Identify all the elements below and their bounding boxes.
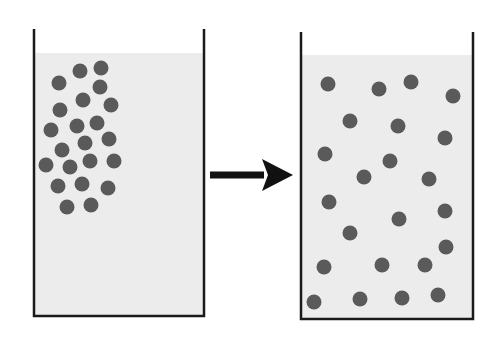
particle <box>446 89 461 104</box>
particle <box>76 93 91 108</box>
particle <box>53 103 68 118</box>
beaker-after <box>301 32 473 319</box>
particle <box>404 75 419 90</box>
particle <box>383 154 398 169</box>
particle <box>78 136 93 151</box>
particle <box>395 291 410 306</box>
particle <box>52 76 67 91</box>
particle <box>343 226 358 241</box>
particle <box>439 240 454 255</box>
particle <box>353 292 368 307</box>
particle <box>51 179 66 194</box>
particle <box>90 116 105 131</box>
particle <box>431 288 446 303</box>
particle <box>63 160 78 175</box>
particle <box>343 114 358 129</box>
particle <box>94 61 109 76</box>
particle <box>84 198 99 213</box>
particle <box>93 80 108 95</box>
particle <box>107 154 122 169</box>
particle <box>102 132 117 147</box>
particle <box>55 143 70 158</box>
particle <box>318 147 333 162</box>
particle <box>317 260 332 275</box>
particle <box>75 177 90 192</box>
particle <box>372 82 387 97</box>
particle <box>104 98 119 113</box>
particle <box>60 200 75 215</box>
particle <box>392 212 407 227</box>
particle <box>101 181 116 196</box>
particle <box>422 172 437 187</box>
arrow-head <box>262 159 293 191</box>
particle <box>375 258 390 273</box>
particle <box>73 64 88 79</box>
particle <box>418 258 433 273</box>
particle <box>307 295 322 310</box>
arrow-right-icon <box>210 159 293 191</box>
particle <box>70 119 85 134</box>
particle <box>322 195 337 210</box>
particle <box>438 131 453 146</box>
particle <box>357 170 372 185</box>
particle <box>83 154 98 169</box>
particle <box>44 123 59 138</box>
beaker-before <box>34 29 204 316</box>
diffusion-diagram <box>0 0 491 341</box>
particle <box>391 119 406 134</box>
particle <box>321 77 336 92</box>
arrow-shaft <box>210 172 264 179</box>
particle <box>438 204 453 219</box>
particle <box>39 158 54 173</box>
